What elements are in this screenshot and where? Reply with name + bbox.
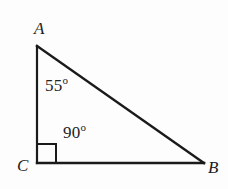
vertex-label-c: C (17, 157, 28, 174)
right-angle-marker (38, 144, 56, 162)
triangle-outline (37, 46, 204, 163)
vertex-label-a: A (34, 20, 44, 37)
vertex-label-b: B (208, 159, 218, 176)
angle-value-c: 90 (63, 123, 81, 142)
angle-label-at-c: 90o (63, 124, 86, 141)
angle-label-at-a: 55o (45, 77, 68, 94)
degree-icon-c: o (81, 121, 87, 133)
angle-value-a: 55 (45, 76, 63, 95)
geometry-diagram: A B C 55o 90o (0, 0, 228, 189)
degree-icon-a: o (63, 74, 69, 86)
right-angle-square-icon (38, 144, 56, 162)
triangle-hypotenuse-ab (37, 46, 204, 163)
